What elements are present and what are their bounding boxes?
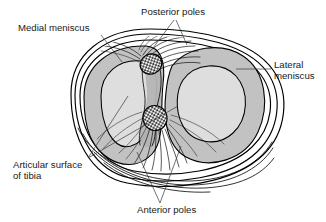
label-lateral-meniscus-line1: Lateral	[274, 59, 303, 70]
tibial-plateau-diagram: Medial meniscus Posterior poles Lateral …	[0, 0, 326, 222]
label-lateral-meniscus: Lateral meniscus	[274, 59, 315, 81]
label-anterior-poles-line1: Anterior poles	[137, 204, 196, 215]
label-anterior-poles: Anterior poles	[137, 204, 196, 215]
label-lateral-meniscus-line2: meniscus	[274, 70, 315, 81]
label-articular-surface-line1: Articular surface	[13, 159, 82, 170]
label-articular-surface-of-tibia: Articular surface of tibia	[13, 159, 82, 181]
label-medial-meniscus-line1: Medial meniscus	[18, 22, 90, 33]
label-medial-meniscus: Medial meniscus	[18, 22, 90, 33]
label-posterior-poles-line1: Posterior poles	[141, 6, 205, 17]
figure-container: Medial meniscus Posterior poles Lateral …	[0, 0, 326, 222]
label-articular-surface-line2: of tibia	[13, 170, 42, 181]
label-posterior-poles: Posterior poles	[141, 6, 205, 17]
lateral-articular-surface	[177, 66, 245, 142]
